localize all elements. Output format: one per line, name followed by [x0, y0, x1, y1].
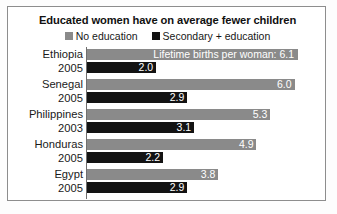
legend-label-secondary-education: Secondary + education [163, 31, 271, 42]
bar-value-label: 3.8 [201, 169, 219, 180]
legend-item-secondary-education: Secondary + education [152, 31, 271, 42]
bar-value-label: 2.2 [145, 152, 163, 163]
bar-group-honduras: Honduras 2005 4.9 2.2 [8, 137, 327, 167]
bar-secondary-education-honduras: 2.2 [87, 152, 163, 163]
category-country: Ethiopia [8, 47, 83, 61]
bar-secondary-education-senegal: 2.9 [87, 92, 187, 103]
bar-no-education-honduras: 4.9 [87, 139, 256, 150]
bar-value-label: 3.1 [177, 122, 195, 133]
bar-secondary-education-egypt: 2.9 [87, 182, 187, 193]
bar-secondary-education-ethiopia: 2.0 [87, 62, 156, 73]
category-label-philippines: Philippines 2003 [8, 107, 83, 135]
bar-no-education-philippines: 5.3 [87, 109, 270, 120]
bar-value-label: 2.0 [139, 62, 157, 73]
bar-annotation-lifetime-births: Lifetime births per woman: 6.1 [153, 49, 298, 60]
page-background: Educated women have on average fewer chi… [0, 0, 337, 214]
category-country: Honduras [8, 137, 83, 151]
category-year: 2005 [8, 91, 83, 105]
bar-value-label: 5.3 [253, 109, 271, 120]
bar-secondary-education-philippines: 3.1 [87, 122, 194, 133]
category-label-ethiopia: Ethiopia 2005 [8, 47, 83, 75]
category-country: Egypt [8, 167, 83, 181]
category-label-egypt: Egypt 2005 [8, 167, 83, 195]
bar-no-education-ethiopia: Lifetime births per woman: 6.1 [87, 49, 298, 60]
bar-group-philippines: Philippines 2003 5.3 3.1 [8, 107, 327, 137]
black-swatch-icon [152, 32, 160, 40]
category-year: 2005 [8, 151, 83, 165]
bar-no-education-egypt: 3.8 [87, 169, 218, 180]
chart-legend: No education Secondary + education [8, 31, 327, 42]
category-year: 2003 [8, 121, 83, 135]
bar-no-education-senegal: 6.0 [87, 79, 295, 90]
bar-value-label: 6.0 [277, 79, 295, 90]
bar-group-senegal: Senegal 2005 6.0 2.9 [8, 77, 327, 107]
gray-swatch-icon [65, 32, 73, 40]
bar-value-label: 2.9 [170, 92, 188, 103]
chart-title: Educated women have on average fewer chi… [8, 14, 327, 26]
category-label-senegal: Senegal 2005 [8, 77, 83, 105]
category-year: 2005 [8, 181, 83, 195]
bar-value-label: 4.9 [239, 139, 257, 150]
category-country: Philippines [8, 107, 83, 121]
category-year: 2005 [8, 61, 83, 75]
bar-group-ethiopia: Ethiopia 2005 Lifetime births per woman:… [8, 47, 327, 77]
legend-item-no-education: No education [65, 31, 138, 42]
chart-frame: Educated women have on average fewer chi… [7, 6, 326, 201]
bar-group-egypt: Egypt 2005 3.8 2.9 [8, 167, 327, 197]
bar-value-label: 2.9 [170, 182, 188, 193]
category-country: Senegal [8, 77, 83, 91]
category-label-honduras: Honduras 2005 [8, 137, 83, 165]
legend-label-no-education: No education [76, 31, 138, 42]
plot-area: Ethiopia 2005 Lifetime births per woman:… [8, 47, 327, 201]
